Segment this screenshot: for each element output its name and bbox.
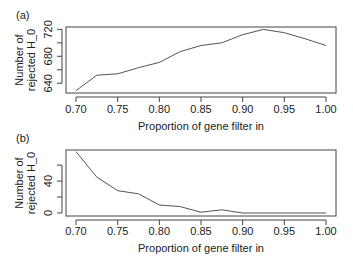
- y-tick-label: 640: [42, 74, 54, 92]
- panel-a-y-axis-label-line2: rejected H_0: [25, 29, 37, 91]
- x-tick-label: 0.95: [274, 103, 295, 115]
- x-tick-label: 1.00: [315, 225, 336, 237]
- panel-a-y-axis: 640680720: [42, 20, 62, 92]
- figure: (a) 0.700.750.800.850.900.951.00 6406807…: [0, 0, 353, 264]
- panel-a-y-axis-label-line1: Number of: [13, 33, 25, 85]
- x-tick-label: 1.00: [315, 103, 336, 115]
- panel-b-label: (b): [16, 132, 29, 144]
- panel-b-y-axis-label-line1: Number of: [13, 156, 25, 208]
- x-tick-label: 0.90: [232, 225, 253, 237]
- y-tick-label: 720: [42, 20, 54, 38]
- x-tick-label: 0.70: [65, 225, 86, 237]
- x-tick-label: 0.80: [149, 225, 170, 237]
- y-tick-label: 40: [42, 175, 54, 187]
- panel-b-x-axis-label: Proportion of gene filter in: [138, 242, 264, 254]
- x-tick-label: 0.85: [190, 225, 211, 237]
- x-tick-label: 0.70: [65, 103, 86, 115]
- y-tick-label: 0: [42, 210, 54, 216]
- x-tick-label: 0.80: [149, 103, 170, 115]
- panel-a-x-axis-label: Proportion of gene filter in: [138, 120, 264, 132]
- x-tick-label: 0.85: [190, 103, 211, 115]
- x-tick-label: 0.90: [232, 103, 253, 115]
- panel-a: (a) 0.700.750.800.850.900.951.00 6406807…: [13, 9, 337, 132]
- panel-b: (b) 0.700.750.800.850.900.951.00 040 Pro…: [13, 132, 337, 254]
- y-tick-label: 680: [42, 47, 54, 65]
- panel-b-data-line: [76, 152, 326, 213]
- panel-b-y-axis-label-line2: rejected H_0: [25, 152, 37, 214]
- panel-a-data-line: [76, 29, 326, 90]
- panel-a-label: (a): [16, 9, 29, 21]
- x-tick-label: 0.95: [274, 225, 295, 237]
- x-tick-label: 0.75: [107, 225, 128, 237]
- panel-a-plot-box: [66, 27, 336, 93]
- panel-a-x-axis: 0.700.750.800.850.900.951.00: [65, 97, 336, 115]
- panel-b-y-axis: 040: [42, 165, 62, 216]
- panel-b-x-axis: 0.700.750.800.850.900.951.00: [65, 220, 336, 237]
- x-tick-label: 0.75: [107, 103, 128, 115]
